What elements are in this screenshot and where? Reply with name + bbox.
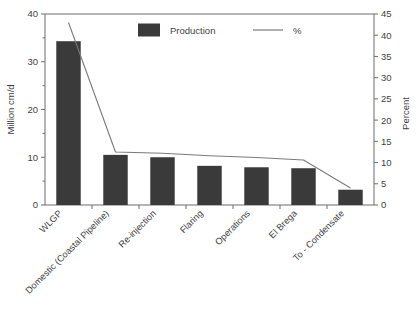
left-axis-tick-label: 20 [27,104,38,115]
legend-label-percent: % [293,25,302,36]
x-axis-labels: WLGPDomestic (Coastal Pipeline)Re-inject… [24,208,346,296]
x-axis-category-label: WLGP [38,208,64,234]
chart-figure: 010203040Million cm/d051015202530354045P… [0,0,420,315]
bar [103,155,127,205]
x-axis-category-label: Domestic (Coastal Pipeline) [24,208,111,295]
right-axis-tick-label: 0 [381,199,386,210]
x-axis-category-label: Operations [213,208,252,247]
right-axis-tick-label: 25 [381,93,392,104]
left-axis-tick-label: 10 [27,152,38,163]
right-axis-tick-label: 35 [381,51,392,62]
left-axis-tick-label: 40 [27,8,38,19]
x-axis-category-label: Re-injection [117,208,158,249]
legend-swatch-production [138,24,160,37]
x-axis-category-label: To - Condensate [291,208,346,263]
right-axis-tick-label: 5 [381,178,386,189]
right-axis-tick-label: 15 [381,136,392,147]
right-axis-tick-label: 20 [381,115,392,126]
bar [197,166,221,205]
x-axis-category-label: Flaring [178,208,205,235]
x-axis-category-label: El Brega [267,208,300,241]
legend: Production% [138,24,302,37]
bar [244,167,268,205]
bar [338,190,362,205]
right-axis-title: Percent [400,97,411,130]
right-axis-tick-label: 40 [381,30,392,41]
left-axis-tick-label: 0 [33,199,38,210]
right-axis-tick-label: 45 [381,8,392,19]
pareto-chart: 010203040Million cm/d051015202530354045P… [0,0,420,315]
left-axis: 010203040Million cm/d [5,8,45,210]
right-axis-tick-label: 30 [381,72,392,83]
bar [56,41,80,205]
right-axis: 051015202530354045Percent [374,8,411,210]
right-axis-tick-label: 10 [381,157,392,168]
bar-series [56,41,362,205]
left-axis-title: Million cm/d [5,84,16,134]
bar [291,168,315,205]
left-axis-tick-label: 30 [27,56,38,67]
bar [150,157,174,205]
legend-label-production: Production [170,25,215,36]
